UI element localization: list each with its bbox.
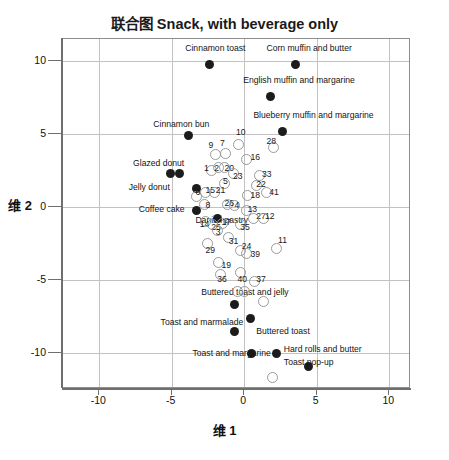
data-point-snack — [291, 60, 300, 69]
x-axis-line — [62, 388, 411, 390]
point-label-number: 1 — [204, 164, 209, 173]
y-axis-line — [61, 38, 63, 388]
point-label-snack: Coffee cake — [139, 204, 185, 214]
data-point-snack — [278, 127, 287, 136]
point-label-snack: Toast pop-up — [284, 357, 334, 367]
data-point-attribute — [220, 148, 231, 159]
x-tick-label: -10 — [78, 394, 118, 406]
x-tick-label: -5 — [151, 394, 191, 406]
data-point-attribute — [267, 372, 278, 383]
point-label-snack: Toast and marmalade — [161, 317, 244, 327]
point-label-number: 37 — [256, 275, 266, 284]
data-point-snack — [246, 314, 255, 323]
y-axis-title: 维 2 — [2, 198, 38, 213]
point-label-snack: Hard rolls and butter — [284, 344, 362, 354]
x-tick-label: 0 — [223, 394, 263, 406]
point-label-number: 17 — [222, 218, 232, 227]
point-label-number: 41 — [269, 188, 279, 197]
point-label-number: 6 — [195, 188, 200, 197]
point-label-number: 7 — [220, 139, 225, 148]
point-label-number: 19 — [222, 261, 232, 270]
x-tick-label: 5 — [296, 394, 336, 406]
gridline-vertical — [317, 39, 318, 387]
point-label-number: 33 — [262, 170, 272, 179]
point-label-number: 29 — [206, 246, 216, 255]
point-label-snack: Cinnamon bun — [153, 119, 209, 129]
point-label-number: 35 — [240, 223, 250, 232]
point-label-number: 10 — [236, 128, 246, 137]
point-label-snack: Toast and margarine — [193, 348, 271, 358]
y-tick-mark — [48, 352, 61, 353]
point-label-number: 9 — [208, 141, 213, 150]
data-point-snack — [175, 169, 184, 178]
point-label-number: 36 — [217, 275, 227, 284]
point-label-number: 16 — [251, 153, 261, 162]
y-tick-mark — [48, 60, 61, 61]
point-label-snack: English muffin and margarine — [243, 75, 355, 85]
point-label-number: 11 — [278, 236, 287, 245]
point-label-number: 12 — [265, 212, 275, 221]
chart-root: 联合图 Snack, with beverage only 1050-5-10 … — [0, 0, 449, 460]
gridline-horizontal — [63, 280, 409, 281]
point-label-snack: Jelly donut — [129, 182, 170, 192]
data-point-snack — [272, 349, 281, 358]
data-point-snack — [230, 327, 239, 336]
point-label-number: 3 — [216, 228, 221, 237]
x-tick-label: 10 — [368, 394, 408, 406]
point-label-snack: Corn muffin and butter — [266, 43, 351, 53]
point-label-number: 28 — [266, 137, 276, 146]
gridline-horizontal — [63, 61, 409, 62]
point-label-number: 8 — [206, 201, 211, 210]
y-tick-mark — [48, 279, 61, 280]
y-tick-label: 10 — [6, 54, 46, 66]
gridline-vertical — [389, 39, 390, 387]
point-label-number: 23 — [233, 172, 243, 181]
x-axis-title: 维 1 — [0, 420, 449, 439]
point-label-snack: Cinnamon toast — [185, 43, 245, 53]
point-label-number: 40 — [237, 275, 247, 284]
point-label-number: 39 — [251, 250, 261, 259]
point-label-snack: Blueberry muffin and margarine — [253, 110, 373, 120]
gridline-vertical — [99, 39, 100, 387]
y-tick-label: -10 — [6, 346, 46, 358]
y-tick-mark — [48, 206, 61, 207]
point-label-number: 4 — [235, 201, 240, 210]
y-tick-label: 5 — [6, 127, 46, 139]
point-label-snack: Buttered toast — [256, 326, 310, 336]
chart-title: 联合图 Snack, with beverage only — [0, 12, 449, 33]
point-label-snack: Glazed donut — [133, 158, 184, 168]
point-label-number: 21 — [216, 186, 226, 195]
y-tick-mark — [48, 133, 61, 134]
point-label-number: 18 — [251, 191, 261, 200]
y-tick-label: -5 — [6, 273, 46, 285]
data-point-snack — [184, 131, 193, 140]
